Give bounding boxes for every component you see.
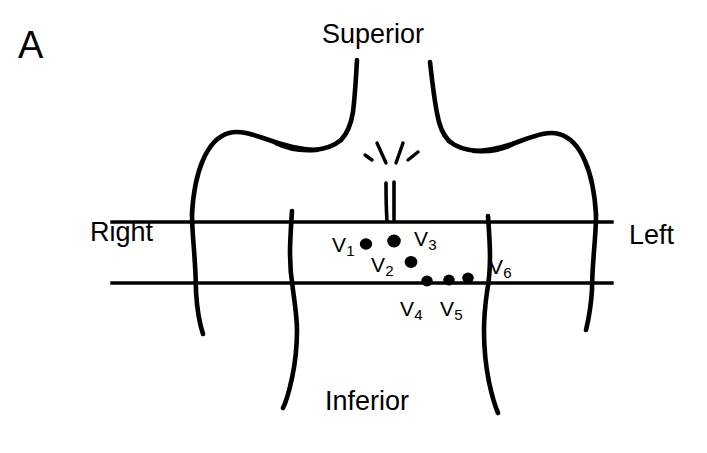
lead-label-v2-sub: 2: [385, 262, 394, 279]
electrode-dot-v4: [421, 276, 433, 287]
lead-label-v6: V6: [489, 256, 512, 280]
lead-label-v2: V2: [371, 254, 394, 278]
lead-label-v3: V3: [414, 228, 437, 252]
lead-label-v1-base: V: [332, 233, 346, 256]
lead-label-v5-base: V: [440, 297, 454, 320]
lead-label-v6-base: V: [489, 255, 503, 278]
torso-right-arm-edge: [586, 215, 596, 330]
electrode-dot-v1: [360, 238, 372, 250]
direction-label-right: Right: [90, 219, 153, 246]
reference-lines-group: [112, 222, 612, 283]
electrode-dot-v6: [462, 273, 474, 284]
electrode-dot-v3: [405, 256, 418, 268]
lead-label-v3-base: V: [414, 227, 428, 250]
shoulder-left-curve: [192, 132, 317, 214]
lead-label-v5: V5: [440, 298, 463, 322]
direction-label-left: Left: [629, 222, 674, 249]
panel-letter-a: A: [18, 26, 44, 64]
notch-tick-left: [377, 143, 386, 163]
torso-inner-left-edge: [283, 211, 297, 408]
shoulder-right-curve: [474, 133, 596, 215]
lead-label-v3-sub: 3: [428, 236, 437, 253]
lead-label-v2-base: V: [371, 253, 385, 276]
lead-label-v6-sub: 6: [503, 264, 512, 281]
direction-label-superior: Superior: [322, 21, 424, 48]
neck-left-edge: [341, 60, 357, 140]
direction-label-inferior: Inferior: [325, 388, 409, 415]
lead-label-v1-sub: 1: [346, 242, 355, 259]
notch-tick-outer-left: [365, 155, 372, 160]
notch-tick-outer-right: [408, 152, 418, 160]
lead-label-v4: V4: [400, 298, 423, 322]
lead-label-v5-sub: 5: [454, 306, 463, 323]
notch-tick-right: [396, 143, 403, 163]
lead-label-v1: V1: [332, 234, 355, 258]
lead-label-v4-sub: 4: [414, 306, 423, 323]
electrode-dot-v5: [443, 275, 455, 286]
electrode-dot-v2: [387, 235, 401, 248]
lead-label-v4-base: V: [400, 297, 414, 320]
torso-left-arm-edge: [192, 214, 203, 334]
torso-inner-right-edge: [484, 216, 498, 413]
sternum-line-left: [386, 183, 387, 221]
figure-panel-a: A Superior Right Left Inferior V1 V2 V3 …: [0, 0, 707, 453]
neck-right-edge: [430, 62, 449, 141]
